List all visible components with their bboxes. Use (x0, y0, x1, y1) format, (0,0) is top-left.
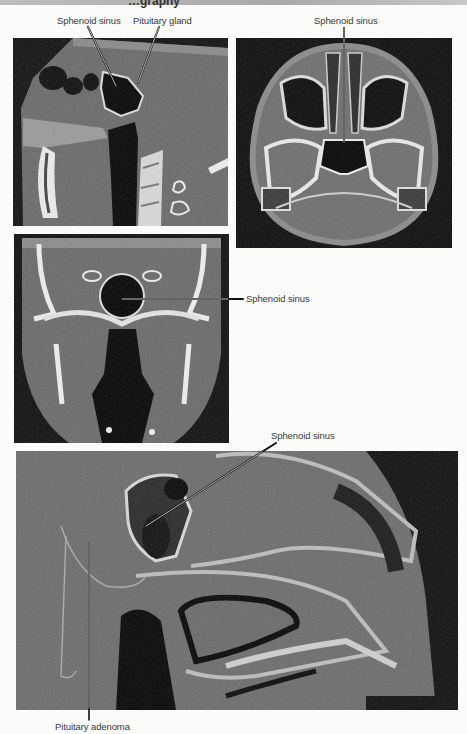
coronal-ct-image (14, 234, 229, 443)
label-pituitary-gland: Pituitary gland (133, 15, 192, 26)
header-banner: …graphy (0, 0, 467, 5)
label-sphenoid-sinus-coronal: Sphenoid sinus (246, 293, 310, 304)
label-sphenoid-sinus-sagittal: Sphenoid sinus (57, 15, 121, 26)
axial-ct-image (236, 38, 452, 248)
axial-ct-graphic (236, 38, 452, 248)
label-sphenoid-sinus-axial: Sphenoid sinus (314, 15, 378, 26)
header-title: …graphy (128, 0, 180, 8)
sagittal-ct-image (13, 38, 228, 226)
label-pituitary-adenoma: Pituitary adenoma (55, 721, 130, 732)
magnified-sagittal-ct-image (16, 451, 458, 710)
label-sphenoid-sinus-magnified: Sphenoid sinus (271, 430, 335, 441)
magnified-sagittal-ct-graphic (16, 451, 458, 710)
coronal-ct-graphic (14, 234, 229, 443)
sagittal-ct-graphic (13, 38, 228, 226)
